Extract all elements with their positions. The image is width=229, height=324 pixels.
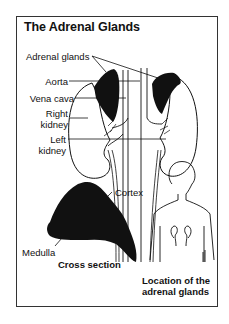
label-vena-cava: Vena cava <box>10 93 74 104</box>
body-right-kidney <box>171 226 177 246</box>
medulla-leader <box>55 238 62 246</box>
label-location-line2: adrenal glands <box>142 286 209 297</box>
human-body-outline <box>150 162 214 263</box>
label-medulla: Medulla <box>22 247 55 258</box>
label-aorta: Aorta <box>28 76 68 87</box>
label-cross-section: Cross section <box>58 259 121 270</box>
left-adrenal-gland <box>152 73 181 114</box>
label-left-kidney-line1: Left <box>26 134 66 145</box>
label-cortex: Cortex <box>115 187 143 198</box>
label-left-kidney-line2: kidney <box>26 145 66 156</box>
body-left-kidney <box>185 226 191 246</box>
label-right-kidney-line2: kidney <box>28 119 68 130</box>
right-adrenal-gland <box>94 69 119 122</box>
label-right-kidney-line1: Right <box>28 108 68 119</box>
label-location-line1: Location of the <box>142 275 210 286</box>
label-adrenal-glands: Adrenal glands <box>26 51 89 62</box>
